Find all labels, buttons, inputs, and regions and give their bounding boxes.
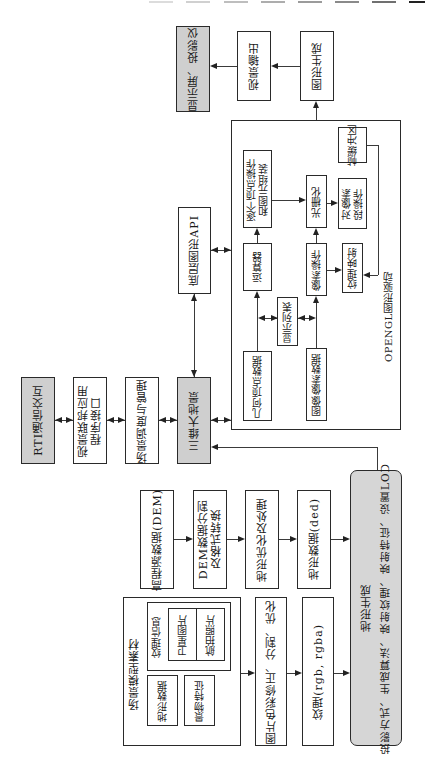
connector (316, 108, 317, 120)
image-color-correction-box: 图片色彩修正、分割、优化 (255, 597, 287, 746)
vertex-ops-label: 逐个顶点操作和图元组装 (246, 158, 270, 221)
arrow-right-icon (331, 200, 338, 206)
terrain-3d-label: 三维大地景 (188, 391, 201, 451)
arrow-down-icon (191, 370, 197, 377)
scene-feature-label: 景物特征 (194, 680, 206, 722)
arrow-left-icon (211, 444, 218, 450)
connector (316, 235, 317, 243)
display-list-label: 显示列表 (282, 301, 294, 343)
decoration-dash (335, 1, 359, 3)
texture-mapping-label: 纹理映射 (347, 247, 359, 289)
texture-rgb-label: 纹理(rgb, rgba) (312, 624, 325, 720)
connector (316, 303, 317, 348)
display-projector-label: 显示屏、投影仪 (187, 27, 200, 111)
terrain-generation-box: 地形生成投影方式、生成算法、映射纹理、映射特征、设置LOD (350, 470, 402, 746)
image-color-correction-label: 图片色彩修正、分割、优化 (265, 600, 278, 744)
dem-source-label: 高程源数据(DEM) (151, 489, 164, 591)
scene-scheduling-label: 场景调度与管理 (136, 379, 149, 463)
rasterization-label: 光栅化 (311, 186, 323, 218)
connector (227, 539, 238, 540)
arrow-up-icon (313, 101, 319, 108)
graphics-generation-label: 图形生成 (311, 42, 324, 90)
connector (334, 673, 343, 674)
decoration-dash (372, 1, 396, 3)
arrow-right-icon (118, 417, 125, 423)
connector (241, 673, 248, 674)
arrow-right-icon (295, 670, 302, 676)
connector (174, 539, 186, 540)
dem-split-label: DEM数据分割及格式转换 (197, 500, 223, 579)
arrow-left-icon (55, 417, 62, 423)
terrain-data-ded-label: 地形数据(ded) (308, 498, 321, 580)
pixel-ops-label: 像素操作 (311, 249, 323, 291)
terrain-data-material-box: 地形数据 (147, 675, 178, 726)
arrow-right-icon (66, 417, 73, 423)
dem-split-box: DEM数据分割及格式转换 (193, 490, 227, 589)
arrow-up-icon (254, 228, 260, 235)
arrow-right-icon (248, 670, 255, 676)
federation-api-box: 视景联邦应用程序接口 (73, 377, 107, 464)
scene-scheduling-box: 场景调度与管理 (125, 377, 159, 464)
connector (378, 145, 379, 275)
connector (257, 235, 258, 243)
decoration-dash (409, 1, 425, 3)
visual-output-box: 视景输出 (237, 31, 271, 101)
display-projector-box: 显示屏、投影仪 (176, 26, 210, 112)
display-list-box: 显示列表 (277, 297, 298, 346)
decoration-dash (298, 1, 322, 3)
arrow-right-icon (335, 267, 342, 273)
decoration-dash (149, 1, 173, 3)
graphics-generation-box: 图形生成 (300, 31, 334, 101)
vertex-ops-box: 逐个顶点操作和图元组装 (243, 150, 272, 228)
terrain-data-material-label: 地形数据 (157, 680, 169, 722)
dem-source-box: 高程源数据(DEM) (140, 490, 174, 589)
arrow-right-icon (343, 536, 350, 542)
evaluator-label: 运算器 (252, 251, 264, 283)
arrow-left-icon (258, 315, 265, 321)
graphics-api-box: 底层图形API (178, 207, 211, 294)
connector (257, 298, 258, 351)
arrow-up-icon (313, 296, 319, 303)
arrow-right-icon (170, 417, 177, 423)
geometry-vertex-data-box: 几何顶点数据 (243, 351, 272, 421)
satellite-image-label: 卫星图片 (177, 614, 189, 656)
texture-info-label: 纹理信息 (151, 612, 163, 662)
rasterization-box: 光栅化 (306, 175, 327, 228)
arrow-left-icon (271, 63, 278, 69)
texture-rgb-box: 纹理(rgb, rgba) (302, 597, 334, 746)
connector (369, 275, 378, 276)
frame-buffer-box: 帧缓冲区 (338, 127, 367, 163)
frame-buffer-label: 帧缓冲区 (347, 124, 359, 166)
connector (331, 539, 343, 540)
decoration-dash (261, 1, 285, 3)
geometry-vertex-data-label: 几何顶点数据 (252, 355, 264, 418)
terrain-optimize-label: 地形优化及处理 (256, 498, 269, 582)
arrow-left-icon (107, 417, 114, 423)
arrow-right-icon (299, 197, 306, 203)
arrow-left-icon (211, 247, 218, 253)
rti-communication-label: RTI通信交互 (32, 385, 45, 456)
fragment-ops-label: 对像素段操作 (341, 188, 365, 220)
rti-communication-box: RTI通信交互 (21, 377, 55, 464)
decoration-dash (186, 1, 210, 3)
connector (218, 447, 377, 448)
arrow-up-icon (254, 291, 260, 298)
connector (367, 145, 378, 146)
arrow-up-icon (313, 228, 319, 235)
arrow-right-icon (238, 536, 245, 542)
federation-api-label: 视景联邦应用程序接口 (77, 385, 103, 457)
arrow-right-icon (309, 315, 316, 321)
terrain-optimize-box: 地形优化及处理 (245, 490, 279, 589)
arrow-left-icon (211, 417, 218, 423)
arrow-right-icon (186, 536, 193, 542)
texture-mapping-box: 纹理映射 (342, 243, 363, 293)
arrow-up-icon (191, 294, 197, 301)
decoration-dash (224, 1, 248, 3)
connector (194, 294, 195, 377)
aerial-photo-label: 航拍照片 (205, 614, 217, 656)
arrow-right-icon (224, 417, 231, 423)
connector (279, 539, 290, 540)
arrow-left-icon (363, 272, 370, 278)
arrow-right-icon (343, 670, 350, 676)
graphics-api-label: 底层图形API (188, 215, 201, 286)
